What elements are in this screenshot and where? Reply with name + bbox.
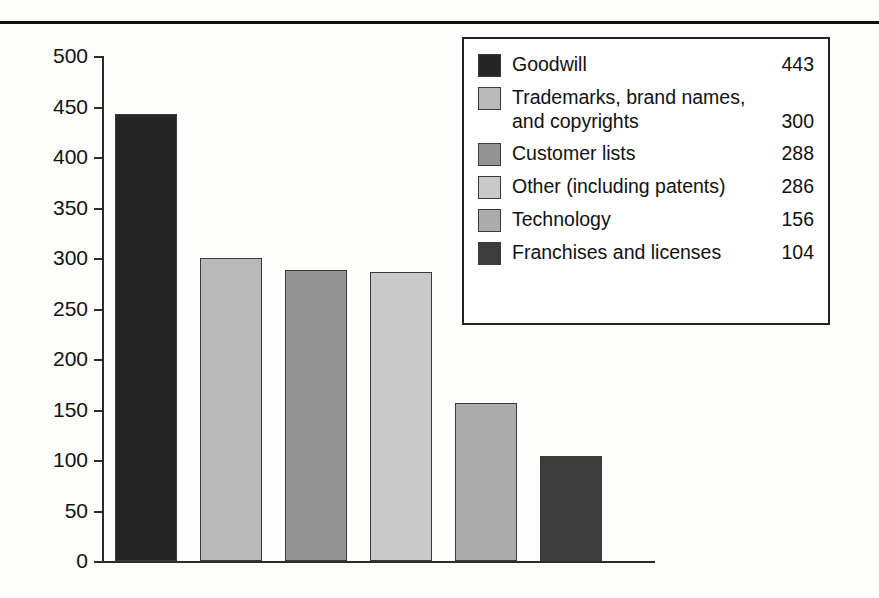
bar <box>370 272 432 561</box>
y-axis-line <box>102 56 104 563</box>
y-tick-mark <box>94 56 102 58</box>
bar <box>200 258 262 561</box>
y-tick-label: 0 <box>24 550 88 571</box>
y-tick-label: 50 <box>24 500 88 521</box>
y-tick-mark <box>94 511 102 513</box>
legend-item-label: Technology <box>501 207 760 231</box>
x-axis-line <box>102 561 655 563</box>
legend-rows: Goodwill443Trademarks, brand names,and c… <box>478 52 814 265</box>
bar <box>115 114 177 561</box>
legend-item-value: 300 <box>760 109 814 133</box>
y-tick-mark <box>94 460 102 462</box>
legend-swatch <box>478 87 501 110</box>
legend-item: Goodwill443 <box>478 52 814 77</box>
y-tick-label: 350 <box>24 197 88 218</box>
legend-item: Other (including patents)286 <box>478 174 814 199</box>
y-tick-mark <box>94 359 102 361</box>
bar <box>285 270 347 561</box>
legend-item-value: 156 <box>760 207 814 231</box>
legend-item-value: 443 <box>760 52 814 76</box>
legend-item-label: Goodwill <box>501 52 760 76</box>
y-tick-label: 400 <box>24 146 88 167</box>
y-tick-mark <box>94 157 102 159</box>
legend-item-label-line1: Trademarks, brand names, <box>512 85 760 109</box>
y-tick-mark <box>94 410 102 412</box>
legend-item-label: Other (including patents) <box>501 174 760 198</box>
legend-item-label-line2: and copyrights <box>512 109 760 133</box>
legend-item: Customer lists288 <box>478 141 814 166</box>
legend-item-label: Franchises and licenses <box>501 240 760 264</box>
legend-item-label: Trademarks, brand names,and copyrights <box>501 85 760 133</box>
y-tick-label: 300 <box>24 247 88 268</box>
legend-item-label: Customer lists <box>501 141 760 165</box>
y-tick-label: 100 <box>24 449 88 470</box>
y-tick-mark <box>94 208 102 210</box>
legend-item-value: 286 <box>760 174 814 198</box>
legend-swatch <box>478 176 501 199</box>
legend-swatch <box>478 209 501 232</box>
y-tick-label: 150 <box>24 399 88 420</box>
legend-item: Trademarks, brand names,and copyrights30… <box>478 85 814 133</box>
legend-item-value: 288 <box>760 141 814 165</box>
y-tick-mark <box>94 258 102 260</box>
y-tick-label: 500 <box>24 45 88 66</box>
legend-item: Technology156 <box>478 207 814 232</box>
y-tick-mark <box>94 309 102 311</box>
legend-swatch <box>478 143 501 166</box>
legend-swatch <box>478 242 501 265</box>
legend-item: Franchises and licenses104 <box>478 240 814 265</box>
y-tick-label: 250 <box>24 298 88 319</box>
bar <box>455 403 517 561</box>
y-tick-mark <box>94 107 102 109</box>
y-tick-label: 450 <box>24 96 88 117</box>
y-tick-mark <box>94 561 102 563</box>
chart-legend: Goodwill443Trademarks, brand names,and c… <box>462 37 830 325</box>
legend-item-value: 104 <box>760 240 814 264</box>
top-horizontal-rule <box>0 21 879 24</box>
bar <box>540 456 602 561</box>
y-tick-label: 200 <box>24 348 88 369</box>
legend-swatch <box>478 54 501 77</box>
